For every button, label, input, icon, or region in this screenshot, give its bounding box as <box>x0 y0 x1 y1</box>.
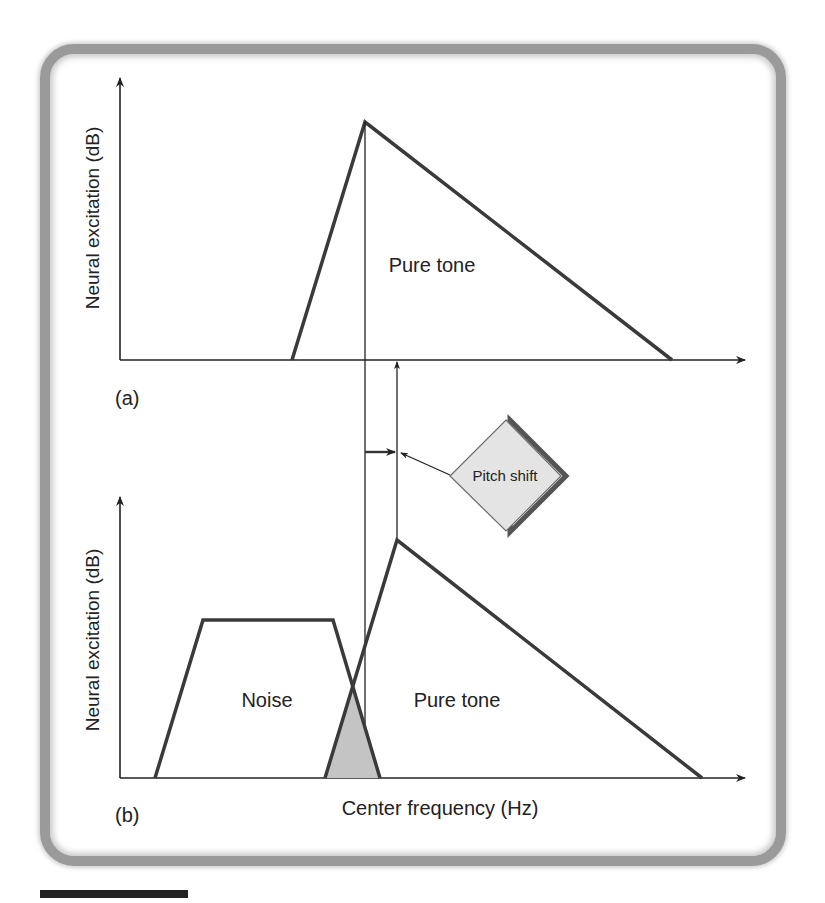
panel-a: Neural excitation (dB) Pure tone (a) <box>82 78 745 409</box>
panel-b: Neural excitation (dB) Noise Pure tone C… <box>82 497 745 826</box>
panel-b-y-axis-label: Neural excitation (dB) <box>82 549 103 732</box>
panel-a-y-axis-label: Neural excitation (dB) <box>82 127 103 310</box>
masking-overlap-region <box>325 690 380 778</box>
panel-a-pure-tone-curve <box>292 122 672 360</box>
callout-label: Pitch shift <box>472 467 538 484</box>
panel-b-pure-tone-curve <box>325 540 702 778</box>
pitch-shift-callout: Pitch shift <box>450 420 566 532</box>
callout-pointer <box>401 453 450 475</box>
noise-label: Noise <box>241 689 292 711</box>
pitch-shift-indicators <box>365 122 450 777</box>
decorative-rule <box>40 890 188 898</box>
panel-b-pure-tone-label: Pure tone <box>414 689 501 711</box>
panel-a-tag: (a) <box>115 387 139 409</box>
panel-a-pure-tone-label: Pure tone <box>389 254 476 276</box>
panel-b-tag: (b) <box>115 804 139 826</box>
x-axis-label: Center frequency (Hz) <box>342 797 539 819</box>
pitch-shift-diagram: Neural excitation (dB) Pure tone (a) Pit… <box>0 0 825 903</box>
